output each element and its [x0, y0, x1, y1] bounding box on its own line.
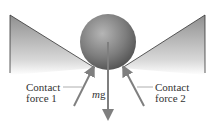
- weight-label: mg: [92, 89, 105, 100]
- contact-force-2-arrow: [125, 70, 144, 106]
- contact-force-1-arrow: [74, 70, 92, 106]
- diagram-canvas: [0, 0, 214, 127]
- contact-force-1-label: Contact force 1: [26, 82, 60, 104]
- mass-symbol: m: [92, 88, 100, 100]
- contact-force-2-label: Contact force 2: [155, 82, 189, 104]
- gravity-vector-symbol: g: [100, 88, 106, 100]
- label-line: force 1: [26, 93, 60, 104]
- label-line: force 2: [155, 93, 189, 104]
